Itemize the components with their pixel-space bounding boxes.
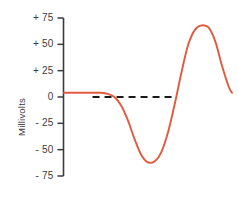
chart-container: + 75+ 50+ 250- 25- 50- 75 Millivolts bbox=[0, 0, 238, 205]
y-axis-tick-label: - 25 bbox=[35, 117, 53, 128]
y-axis-tick-label: + 75 bbox=[33, 12, 54, 23]
waveform-chart: + 75+ 50+ 250- 25- 50- 75 Millivolts bbox=[0, 0, 238, 205]
y-axis-tick-label: 0 bbox=[48, 91, 54, 102]
y-axis-tick-label: - 75 bbox=[35, 170, 53, 181]
y-axis-tick-label: - 50 bbox=[35, 144, 53, 155]
y-axis-tick-label: + 50 bbox=[33, 38, 54, 49]
y-axis-title: Millivolts bbox=[16, 98, 27, 136]
y-axis-tick-label: + 25 bbox=[33, 65, 54, 76]
